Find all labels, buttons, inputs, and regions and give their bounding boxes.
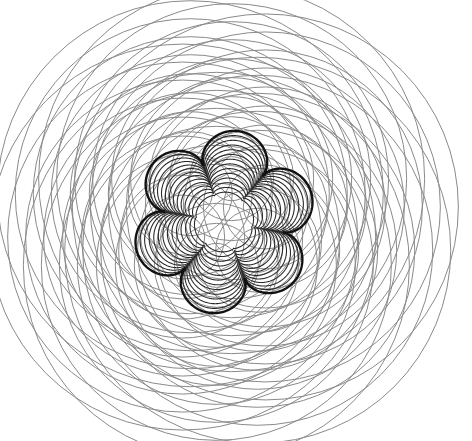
circle-families	[0, 0, 458, 441]
diagram-canvas: Six families of concentric circles formi…	[0, 0, 472, 441]
concentric-circles-flower-figure	[0, 0, 472, 441]
